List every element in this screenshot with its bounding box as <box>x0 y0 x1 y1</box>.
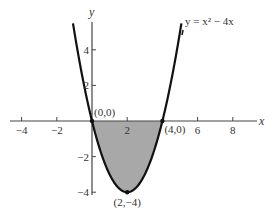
x-axis-label: x <box>258 114 265 128</box>
parabola-chart: −4−226842−2−4 (0,0)(4,0)(2,−4) y = x² − … <box>0 0 275 217</box>
y-tick-label: 2 <box>84 79 90 91</box>
y-tick-label: −4 <box>77 186 89 198</box>
x-tick-label: 2 <box>124 124 130 136</box>
x-tick-label: −4 <box>16 124 28 136</box>
x-tick-label: 6 <box>195 124 201 136</box>
y-tick-label: 4 <box>84 44 90 56</box>
point-marker <box>125 190 129 194</box>
y-axis-label: y <box>88 5 95 19</box>
x-tick-label: 8 <box>230 124 236 136</box>
y-tick-label: −2 <box>77 151 89 163</box>
point-label: (0,0) <box>94 106 115 119</box>
point-marker <box>90 119 94 123</box>
point-label: (4,0) <box>164 123 185 136</box>
x-tick-label: −2 <box>51 124 63 136</box>
equation-label: y = x² − 4x <box>185 15 234 27</box>
point-label: (2,−4) <box>114 196 142 209</box>
